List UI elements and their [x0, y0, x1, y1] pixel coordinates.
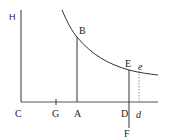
label-d-small: d [136, 109, 142, 120]
label-e: E [125, 58, 131, 69]
label-a: A [74, 108, 82, 119]
label-d: D [121, 108, 128, 119]
hyperbola-curve [62, 10, 158, 75]
label-e-small: e [138, 61, 143, 72]
label-h: H [9, 12, 16, 22]
label-g: G [52, 108, 59, 119]
label-c: C [15, 108, 22, 119]
label-b: B [79, 25, 86, 36]
diagram-canvas: H C G A B D E e d F [0, 0, 171, 140]
label-f: F [124, 128, 130, 139]
